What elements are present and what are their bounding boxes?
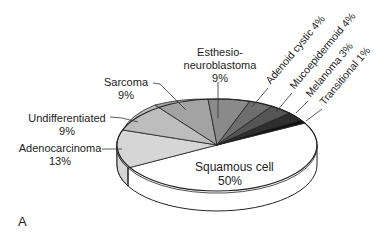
label-name-line1: Esthesio-: [180, 46, 260, 59]
label-undifferentiated: Undifferentiated 9%: [25, 112, 109, 138]
label-name: Squamous cell: [195, 160, 265, 174]
label-pct: 9%: [180, 72, 260, 85]
label-squamous-cell: Squamous cell 50%: [195, 160, 265, 188]
label-name: Adenocarcinoma: [18, 142, 102, 155]
label-pct: 9%: [96, 89, 156, 102]
label-pct: 50%: [195, 174, 265, 188]
label-name: Sarcoma: [96, 76, 156, 89]
label-sarcoma: Sarcoma 9%: [96, 76, 156, 102]
label-pct: 9%: [25, 125, 109, 138]
label-name-line2: neuroblastoma: [180, 59, 260, 72]
label-pct: 13%: [18, 155, 102, 168]
label-adenocarcinoma: Adenocarcinoma 13%: [18, 142, 102, 168]
label-esthesioneuroblastoma: Esthesio- neuroblastoma 9%: [180, 46, 260, 85]
panel-label: A: [18, 214, 27, 229]
label-name: Undifferentiated: [25, 112, 109, 125]
